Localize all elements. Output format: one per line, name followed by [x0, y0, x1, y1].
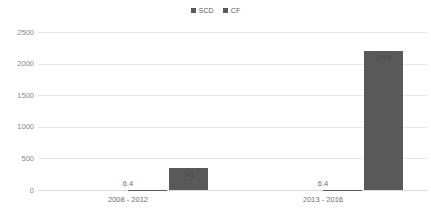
- legend-swatch-scd: [191, 8, 196, 13]
- y-tick-2000: 2000: [0, 60, 34, 68]
- axis-baseline: [38, 190, 428, 191]
- legend-label-cf: CF: [231, 7, 241, 14]
- chart-legend: SCD CF: [0, 7, 431, 14]
- legend-item-scd[interactable]: SCD: [191, 7, 214, 14]
- y-tick-500: 500: [0, 155, 34, 163]
- x-category-label-1: 2008 - 2012: [66, 196, 190, 204]
- bar-label-cf-2008-2012: 341: [169, 171, 208, 178]
- bar-group-2013-2016: 6.4 2205: [291, 32, 431, 190]
- y-tick-1000: 1000: [0, 123, 34, 131]
- bar-cf-2008-2012[interactable]: 341: [169, 168, 208, 190]
- legend-label-scd: SCD: [199, 7, 214, 14]
- plot-area: 6.4 341 6.4 2205: [38, 32, 428, 190]
- bar-label-scd-2013-2016: 6.4: [303, 180, 343, 188]
- legend-item-cf[interactable]: CF: [223, 7, 241, 14]
- x-category-label-2: 2013 - 2016: [261, 196, 385, 204]
- bar-label-cf-2013-2016: 2205: [364, 54, 403, 61]
- y-axis: 2500 2000 1500 1000 500 0: [0, 0, 34, 221]
- y-tick-2500: 2500: [0, 29, 34, 37]
- legend-swatch-cf: [223, 8, 228, 13]
- bar-label-scd-2008-2012: 6.4: [108, 180, 148, 188]
- bar-chart: SCD CF 2500 2000 1500 1000 500 0 6.4 341: [0, 0, 431, 221]
- y-tick-1500: 1500: [0, 92, 34, 100]
- y-tick-0: 0: [0, 187, 34, 195]
- bar-cf-2013-2016[interactable]: 2205: [364, 51, 403, 190]
- bar-group-2008-2012: 6.4 341: [96, 32, 236, 190]
